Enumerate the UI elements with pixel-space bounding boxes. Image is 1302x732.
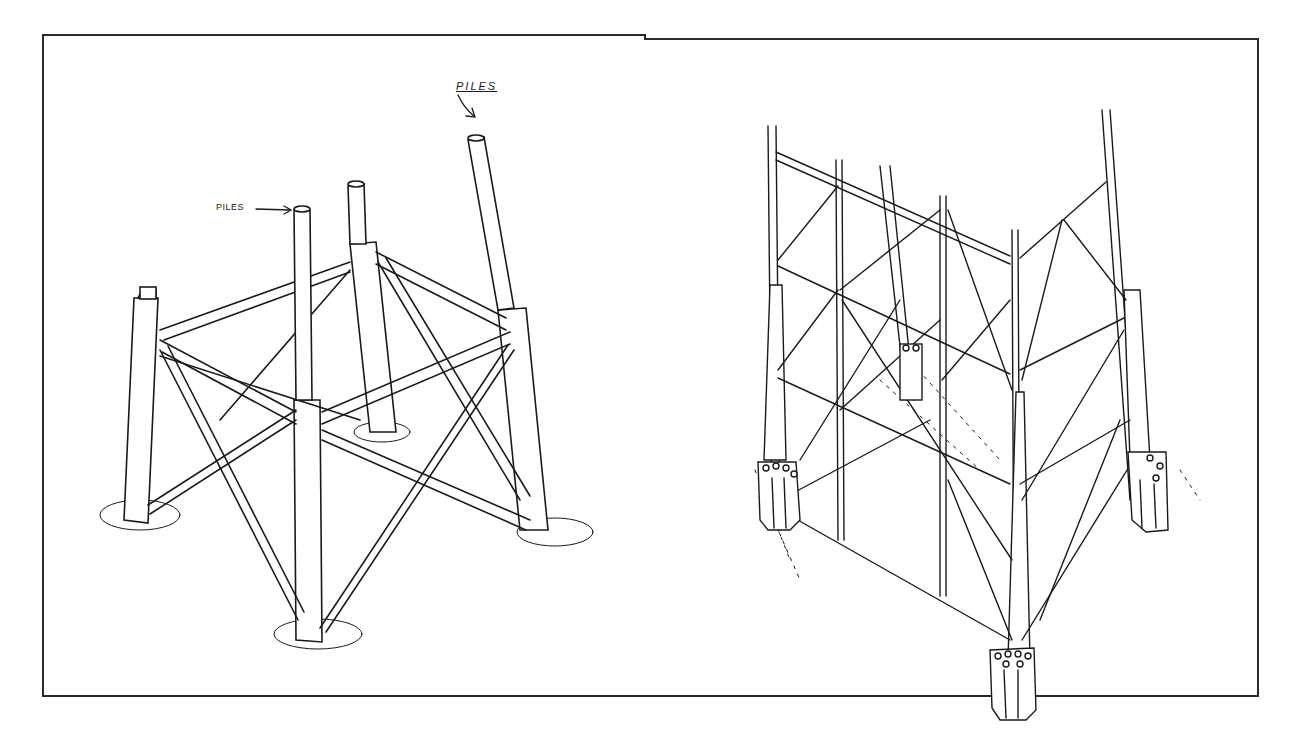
pile-cluster-left	[758, 462, 800, 530]
right-jacket-drawing	[0, 0, 1302, 732]
pile-cluster-front	[990, 648, 1036, 720]
diagonal-braces	[778, 186, 1126, 640]
columns	[768, 110, 1138, 630]
pile-cluster-right	[1128, 452, 1168, 532]
pile-cluster-back	[900, 344, 922, 400]
leg-sleeves	[764, 285, 1150, 660]
